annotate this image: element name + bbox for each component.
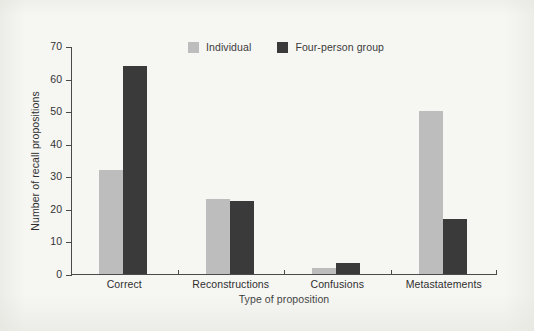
bar-pair [99, 46, 147, 274]
bar-chart-figure: Individual Four-person group Number of r… [0, 0, 534, 331]
bar-pair [419, 46, 467, 274]
bar-confusions-individual [312, 268, 336, 275]
y-axis-line [71, 47, 72, 276]
bar-group-metastatements: Metastatements [419, 46, 469, 274]
y-tick-label-50: 50 [50, 105, 62, 117]
y-tick-10: 10 [66, 242, 71, 243]
y-axis-title: Number of recall propositions [28, 47, 41, 275]
y-tick-label-20: 20 [50, 203, 62, 215]
y-tick-60: 60 [66, 80, 71, 81]
y-tick-label-60: 60 [50, 73, 62, 85]
bar-metastatements-individual [419, 111, 443, 274]
y-tick-label-10: 10 [50, 235, 62, 247]
x-tick-label-correct: Correct [107, 278, 142, 290]
y-tick-label-70: 70 [50, 40, 62, 52]
bar-group-confusions: Confusions [312, 46, 362, 274]
x-axis-title: Type of proposition [71, 293, 497, 305]
x-tick-label-metastatements: Metastatements [406, 278, 482, 290]
bar-confusions-four-person-group [336, 263, 360, 274]
y-tick-label-0: 0 [56, 268, 62, 280]
bar-reconstructions-individual [206, 199, 230, 274]
y-tick-20: 20 [66, 210, 71, 211]
x-tick-boundary-2 [391, 270, 392, 275]
bar-reconstructions-four-person-group [230, 201, 254, 274]
y-tick-label-30: 30 [50, 170, 62, 182]
x-tick-boundary-0 [178, 270, 179, 275]
bar-correct-four-person-group [123, 66, 147, 274]
x-tick-boundary-1 [284, 270, 285, 275]
bar-group-reconstructions: Reconstructions [206, 46, 256, 274]
bar-group-correct: Correct [99, 46, 149, 274]
y-tick-50: 50 [66, 112, 71, 113]
x-tick-label-reconstructions: Reconstructions [192, 278, 269, 290]
x-tick-boundary-3 [496, 270, 497, 275]
bar-correct-individual [99, 170, 123, 274]
y-tick-70: 70 [66, 47, 71, 48]
plot-area: 010203040506070 CorrectReconstructionsCo… [71, 47, 497, 275]
y-tick-0: 0 [66, 275, 71, 276]
bar-pair [312, 46, 360, 274]
y-tick-label-40: 40 [50, 138, 62, 150]
bar-pair [206, 46, 254, 274]
y-tick-40: 40 [66, 145, 71, 146]
x-tick-label-confusions: Confusions [310, 278, 364, 290]
bar-metastatements-four-person-group [443, 219, 467, 274]
y-tick-30: 30 [66, 177, 71, 178]
